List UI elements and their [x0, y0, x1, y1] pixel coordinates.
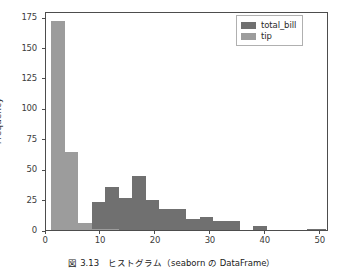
y-axis-tick-label: 150: [21, 43, 37, 53]
x-axis-tick-mark: [45, 231, 46, 234]
histogram-bar: [51, 21, 64, 230]
histogram-bar: [213, 221, 226, 230]
legend-item: tip: [241, 31, 296, 41]
x-axis-tick-label: 30: [205, 235, 215, 245]
histogram-bar: [173, 209, 186, 230]
x-axis-tick-mark: [264, 231, 265, 234]
legend-label: total_bill: [261, 20, 296, 30]
histogram-bar: [105, 187, 118, 230]
histogram-bar: [132, 176, 145, 230]
y-axis-label-text: Frequency: [0, 98, 3, 145]
x-axis-tick-label: 50: [315, 235, 325, 245]
legend-swatch: [241, 22, 256, 29]
legend-swatch: [241, 33, 256, 40]
histogram-bar: [159, 209, 172, 230]
histogram-bar: [186, 219, 199, 230]
x-axis-tick-mark: [154, 231, 155, 234]
x-axis-tick-label: 40: [260, 235, 270, 245]
y-axis-tick-label: 75: [27, 134, 37, 144]
x-axis-tick-label: 10: [95, 235, 105, 245]
histogram-bar: [146, 200, 159, 230]
histogram-bar: [78, 223, 91, 230]
y-axis-tick-label: 125: [21, 73, 37, 83]
x-axis-tick-label: 20: [150, 235, 160, 245]
histogram-bar: [119, 198, 132, 230]
y-axis-tick-label: 25: [27, 195, 37, 205]
histogram-bar: [321, 229, 326, 230]
histogram-bar: [253, 226, 266, 230]
histogram-bar: [307, 229, 320, 230]
x-axis-tick-label: 0: [42, 235, 47, 245]
histogram-bar: [65, 152, 78, 230]
y-axis-tick-label: 50: [27, 164, 37, 174]
legend-label: tip: [261, 31, 272, 41]
y-axis-tick-label: 100: [21, 103, 37, 113]
y-axis-tick-label: 0: [32, 225, 37, 235]
x-axis-tick-mark: [99, 231, 100, 234]
x-axis-tick-mark: [319, 231, 320, 234]
histogram-bar: [105, 229, 118, 230]
histogram-bar: [92, 229, 105, 230]
histogram-bar: [227, 221, 240, 230]
histogram-bar: [200, 217, 213, 230]
legend-item: total_bill: [241, 20, 296, 30]
x-axis-tick-mark: [209, 231, 210, 234]
figure-caption: 図 3.13 ヒストグラム（seaborn の DataFrame）: [0, 256, 344, 268]
y-axis-tick-label: 175: [21, 12, 37, 22]
histogram-bar: [92, 202, 105, 230]
legend: total_billtip: [236, 15, 303, 46]
